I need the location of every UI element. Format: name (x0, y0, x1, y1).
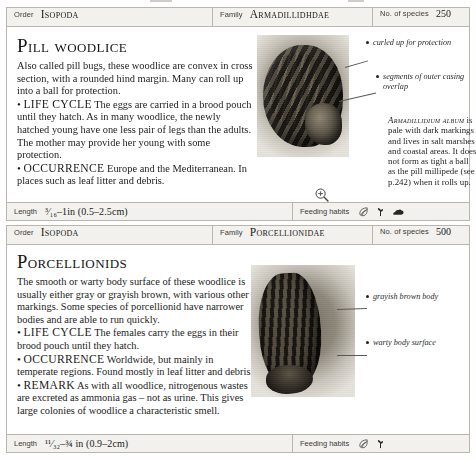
sprout-icon (375, 438, 386, 449)
caption-scientific-name: Armadillidium album (388, 115, 464, 125)
life-cycle-paragraph: • LIFE CYCLE The females carry the eggs … (17, 326, 255, 352)
panel-footer: Length ¹¹⁄₃₂–¾ in (0.9–2cm) Feeding habi… (7, 434, 469, 452)
annotation-text: warty body surface (373, 338, 436, 347)
annotation-warty-body-surface: warty body surface (373, 338, 469, 348)
annotation-text: grayish brown body (373, 292, 438, 301)
header-field-family: Family Armadillidhdae (212, 8, 372, 26)
feeding-habits-label: Feeding habits (300, 207, 349, 216)
species-count-label: No. of species (380, 9, 429, 18)
text-column: Pill woodlice Also called pill bugs, the… (17, 31, 255, 188)
length-label: Length (14, 439, 37, 448)
magnifier-plus-icon (314, 187, 330, 203)
bullet-icon: • (17, 98, 21, 110)
order-label: Order (14, 10, 34, 19)
photo-frame (257, 35, 349, 157)
length-label: Length (14, 207, 37, 216)
panel-body: Porcellionids The smooth or warty body s… (7, 245, 469, 434)
occurrence-paragraph: • OCCURRENCE Europe and the Mediterranea… (17, 162, 255, 188)
header-field-species-count: No. of species 250 (372, 8, 469, 26)
order-value: Isopoda (41, 8, 79, 20)
page-title: Porcellionids (17, 251, 255, 273)
porcellionid-photo (251, 265, 355, 397)
panel-body: Pill woodlice Also called pill bugs, the… (7, 27, 469, 202)
caption-body-text: is pale with dark markings and lives in … (388, 115, 476, 187)
family-value: Armadillidhdae (250, 8, 330, 20)
family-value: Porcellionidae (250, 226, 325, 238)
footer-field-feeding-habits: Feeding habits (292, 203, 469, 220)
intro-paragraph: The smooth or warty body surface of thes… (17, 276, 255, 326)
header-field-species-count: No. of species 500 (372, 226, 469, 244)
bullet-icon: • (17, 162, 21, 174)
scan-artifact (348, 0, 364, 2)
header-field-order: Order Isopoda (7, 8, 212, 26)
leader-line (337, 355, 367, 356)
photo-frame (251, 265, 355, 397)
family-label: Family (220, 228, 243, 237)
species-panel-porcellionids: Order Isopoda Family Porcellionidae No. … (6, 225, 470, 453)
photo-grain-overlay (257, 35, 349, 157)
soil-icon (392, 206, 405, 217)
text-column: Porcellionids The smooth or warty body s… (17, 249, 255, 418)
family-label: Family (220, 10, 243, 19)
life-cycle-paragraph: • LIFE CYCLE The eggs are carried in a b… (17, 98, 255, 162)
remark-paragraph: • REMARK As with all woodlice, nitrogeno… (17, 379, 255, 418)
life-cycle-kicker: LIFE CYCLE (23, 98, 91, 111)
header-field-order: Order Isopoda (7, 226, 212, 244)
feeding-habits-label: Feeding habits (300, 439, 349, 448)
order-label: Order (14, 228, 34, 237)
footer-field-feeding-habits: Feeding habits (292, 435, 469, 452)
order-value: Isopoda (41, 226, 79, 238)
footer-field-length: Length ¹¹⁄₃₂–¾ in (0.9–2cm) (7, 435, 292, 452)
annotation-dot (366, 41, 369, 44)
occurrence-paragraph: • OCCURRENCE Worldwide, but mainly in te… (17, 353, 255, 379)
length-value: ³⁄₁₆–1in (0.5–2.5cm) (45, 206, 128, 217)
scan-artifact (150, 0, 172, 2)
species-count-value: 250 (436, 8, 451, 19)
annotation-grayish-brown-body: grayish brown body (373, 292, 469, 302)
bullet-icon: • (17, 326, 21, 338)
annotation-segments-overlap: segments of outer casing overlap (383, 72, 476, 91)
feeding-habits-icon-group (358, 438, 386, 449)
species-count-value: 500 (436, 226, 451, 237)
photo-grain-overlay (251, 265, 355, 397)
annotation-text: curled up for protection (373, 38, 451, 47)
leaf-icon (358, 438, 369, 449)
page-title: Pill woodlice (17, 35, 255, 57)
bullet-icon: • (17, 379, 21, 391)
bullet-icon: • (17, 353, 21, 365)
encyclopedia-page: Order Isopoda Family Armadillidhdae No. … (0, 0, 476, 460)
sprout-icon (375, 206, 386, 217)
annotation-dot (366, 295, 369, 298)
occurrence-kicker: OCCURRENCE (23, 162, 104, 175)
feeding-habits-icon-group (358, 206, 405, 217)
intro-paragraph: Also called pill bugs, these woodlice ar… (17, 60, 255, 98)
annotation-text: segments of outer casing overlap (383, 72, 464, 91)
species-caption: Armadillidium album is pale with dark ma… (388, 115, 476, 187)
leaf-icon (358, 206, 369, 217)
length-value: ¹¹⁄₃₂–¾ in (0.9–2cm) (45, 438, 128, 449)
species-panel-pill-woodlice: Order Isopoda Family Armadillidhdae No. … (6, 7, 470, 221)
header-field-family: Family Porcellionidae (212, 226, 372, 244)
panel-header: Order Isopoda Family Armadillidhdae No. … (7, 8, 469, 27)
pill-woodlouse-photo (257, 35, 349, 157)
life-cycle-kicker: LIFE CYCLE (23, 326, 91, 339)
annotation-curled-up: curled up for protection (373, 38, 473, 48)
remark-kicker: REMARK (23, 379, 74, 392)
annotation-dot (376, 75, 379, 78)
species-count-label: No. of species (380, 227, 429, 236)
panel-footer: Length ³⁄₁₆–1in (0.5–2.5cm) Feeding habi… (7, 202, 469, 220)
footer-field-length: Length ³⁄₁₆–1in (0.5–2.5cm) (7, 203, 292, 220)
panel-header: Order Isopoda Family Porcellionidae No. … (7, 226, 469, 245)
annotation-dot (366, 341, 369, 344)
occurrence-kicker: OCCURRENCE (23, 353, 104, 366)
